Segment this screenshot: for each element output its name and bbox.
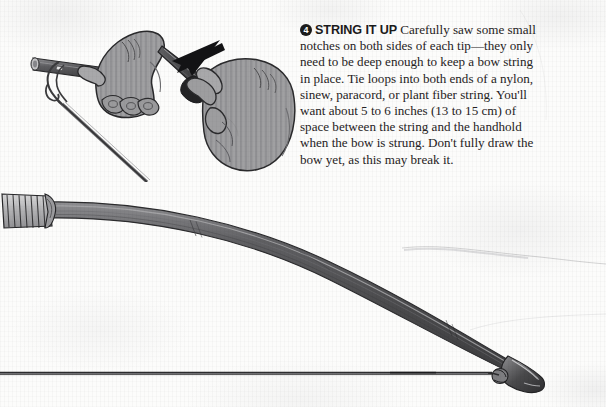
left-hand-holding-bow-tip	[78, 31, 164, 117]
step-text-block: 4STRING IT UP Carefully saw some small n…	[300, 22, 546, 168]
step-number-badge: 4	[300, 24, 312, 36]
step-body-text: Carefully saw some small notches on both…	[300, 22, 536, 167]
page-root: 4STRING IT UP Carefully saw some small n…	[0, 0, 606, 407]
step-heading: STRING IT UP	[315, 23, 400, 37]
bowstring	[0, 372, 499, 375]
wrapped-handhold-grip	[2, 194, 56, 228]
right-hand-grasping-bow-tip	[187, 59, 295, 171]
strung-bow-illustration	[0, 180, 606, 407]
hands-tying-bowstring-illustration	[10, 12, 300, 182]
bow-limb	[46, 202, 522, 378]
